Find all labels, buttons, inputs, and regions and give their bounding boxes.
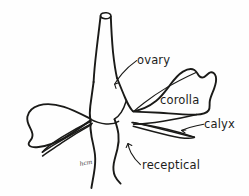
label-receptical: receptical	[142, 158, 200, 172]
calyx-leader-arrow-icon	[182, 130, 186, 133]
style-opening-icon	[100, 13, 110, 19]
ovary-leader-arrow-icon	[115, 83, 119, 89]
style-tube	[94, 13, 117, 82]
pedicel-left-edge	[90, 120, 95, 188]
handwritten-annotation: hcm	[79, 158, 93, 167]
label-calyx: calyx	[204, 117, 235, 131]
label-ovary: ovary	[137, 53, 170, 67]
pedicel-right-edge	[113, 119, 120, 183]
receptacle-pedicel	[90, 119, 120, 188]
style-right-wall	[111, 16, 117, 78]
right-petal-crease	[134, 114, 197, 124]
receptical-leader-line	[128, 144, 140, 165]
left-sepal-second	[43, 125, 92, 156]
ovary-inner-fold	[114, 101, 126, 120]
ovary-body	[90, 78, 133, 119]
flower-diagram-figure: ovary corolla calyx receptical hcm	[0, 0, 249, 196]
flower-diagram-canvas: ovary corolla calyx receptical hcm	[0, 0, 249, 196]
left-sepals	[42, 121, 92, 156]
style-left-wall	[94, 16, 101, 82]
right-petal-outline	[133, 69, 216, 115]
label-corolla: corolla	[160, 93, 199, 107]
calyx-leader-line	[182, 124, 204, 130]
ovary-left-contour	[90, 82, 94, 119]
